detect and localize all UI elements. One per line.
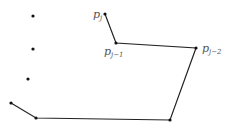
hull-chain bbox=[11, 14, 196, 120]
point-pj-minus-1 bbox=[114, 41, 117, 44]
point-pj-minus-2 bbox=[194, 46, 197, 49]
point-pj bbox=[103, 12, 106, 15]
point-bottom-right bbox=[168, 118, 171, 121]
convex-hull-diagram: pj pj−1 pj−2 bbox=[0, 0, 227, 134]
label-pj: pj bbox=[93, 8, 103, 22]
isolated-point bbox=[31, 47, 34, 50]
isolated-point bbox=[26, 77, 29, 80]
isolated-point bbox=[31, 14, 34, 17]
point-bottom-left bbox=[34, 116, 37, 119]
label-pj-minus-2: pj−2 bbox=[202, 42, 222, 56]
label-pj-minus-1: pj−1 bbox=[104, 45, 124, 59]
point-far-left bbox=[9, 101, 12, 104]
